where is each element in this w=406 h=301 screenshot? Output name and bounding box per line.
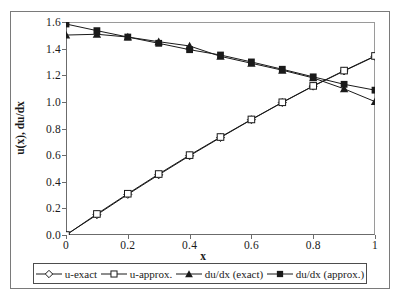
- data-point-open-square: [94, 211, 101, 218]
- legend-label: du/dx (exact): [205, 268, 263, 280]
- legend-marker-open-diamond-icon: [36, 267, 62, 281]
- x-tick-mark: [375, 235, 376, 239]
- data-point-open-square: [125, 190, 132, 197]
- data-point-filled-square: [66, 22, 69, 27]
- legend-entry: u-exact: [36, 267, 97, 281]
- y-tick-label: 1.0: [46, 96, 61, 108]
- series-u-exact: [66, 52, 375, 235]
- x-tick-mark: [128, 235, 129, 239]
- series-du-dx-approx-: [66, 22, 375, 94]
- data-point-filled-square: [248, 59, 255, 66]
- y-tick-label: 0.8: [46, 123, 61, 135]
- x-tick-mark: [66, 235, 67, 239]
- data-point-filled-square: [277, 270, 283, 276]
- legend-entry: du/dx (exact): [176, 267, 263, 281]
- data-point-filled-square: [341, 81, 348, 88]
- data-point-filled-square: [155, 40, 162, 47]
- x-tick-mark: [251, 235, 252, 239]
- chart-legend: u-exactu-approx.du/dx (exact)du/dx (appr…: [33, 263, 367, 284]
- x-tick-mark: [313, 235, 314, 239]
- data-point-filled-square: [279, 66, 286, 73]
- data-point-filled-square: [94, 27, 101, 34]
- data-point-filled-square: [217, 52, 224, 59]
- y-tick-label: 1.4: [46, 43, 61, 55]
- y-tick-label: 0.0: [46, 229, 61, 241]
- x-tick-mark: [190, 235, 191, 239]
- y-tick-label: 1.2: [46, 69, 61, 81]
- data-point-open-square: [217, 134, 224, 141]
- data-point-open-square: [310, 83, 317, 90]
- legend-marker-open-square-icon: [101, 267, 127, 281]
- data-point-open-square: [186, 152, 193, 159]
- data-point-open-square: [372, 53, 375, 60]
- legend-entry: du/dx (approx.): [267, 267, 364, 281]
- series-canvas: [66, 22, 375, 235]
- legend-label: u-approx.: [130, 268, 172, 280]
- data-point-open-square: [341, 67, 348, 74]
- series-u-approx-: [66, 53, 375, 235]
- series-line: [66, 34, 375, 101]
- y-axis-title: u(x), du/dx: [14, 101, 26, 155]
- data-point-open-square: [279, 99, 286, 106]
- legend-entry: u-approx.: [101, 267, 172, 281]
- data-point-open-square: [155, 171, 162, 178]
- y-tick-label: 0.2: [46, 202, 61, 214]
- series-line: [66, 56, 375, 235]
- legend-marker-filled-triangle-icon: [176, 267, 202, 281]
- x-axis-title: x: [0, 250, 406, 262]
- y-tick-label: 0.4: [46, 176, 61, 188]
- legend-marker-filled-square-icon: [267, 267, 293, 281]
- data-point-open-square: [248, 116, 255, 123]
- data-point-filled-square: [186, 46, 193, 53]
- data-point-open-diamond: [45, 270, 52, 277]
- data-point-filled-square: [310, 73, 317, 80]
- data-point-filled-square: [372, 87, 375, 94]
- data-point-filled-triangle: [371, 97, 375, 105]
- legend-label: u-exact: [65, 268, 97, 280]
- series-du-dx-exact-: [66, 30, 375, 105]
- y-tick-label: 0.6: [46, 149, 61, 161]
- plot-area: [66, 22, 375, 235]
- y-tick-label: 1.6: [46, 16, 61, 28]
- data-point-filled-square: [124, 34, 131, 41]
- chart-figure: u(x), du/dx 0.00.20.40.60.81.01.21.41.6 …: [0, 0, 406, 301]
- legend-label: du/dx (approx.): [296, 268, 364, 280]
- data-point-open-square: [66, 232, 69, 235]
- data-point-open-square: [111, 270, 117, 276]
